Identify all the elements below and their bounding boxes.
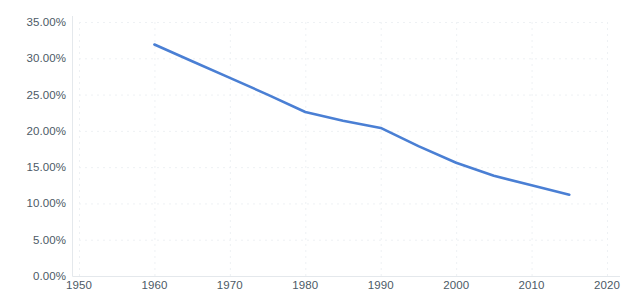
x-axis-tick-label: 1980 <box>275 279 335 291</box>
x-axis-tick-label: 1950 <box>49 279 109 291</box>
x-axis-tick-label: 1970 <box>200 279 260 291</box>
x-axis-tick-label: 2020 <box>577 279 625 291</box>
x-axis-tick-label: 2010 <box>502 279 562 291</box>
line-chart: 35.00%30.00%25.00%20.00%15.00%10.00%5.00… <box>0 0 625 303</box>
x-axis-tick-label: 1990 <box>351 279 411 291</box>
x-axis-tick-label: 2000 <box>426 279 486 291</box>
x-axis-tick-label: 1960 <box>124 279 184 291</box>
x-axis: 19501960197019801990200020102020 <box>0 0 625 303</box>
